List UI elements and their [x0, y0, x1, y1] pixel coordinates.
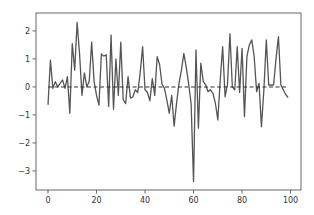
x-tick-label: 0	[45, 196, 50, 205]
x-tick-label: 60	[188, 196, 198, 205]
x-tick-label: 100	[283, 196, 298, 205]
y-tick-label: 1	[25, 55, 30, 64]
x-tick-label: 40	[140, 196, 150, 205]
y-tick-label: 2	[25, 27, 30, 36]
y-tick-label: 0	[25, 83, 30, 92]
line-chart: 020406080100 210−1−2−3	[0, 0, 314, 215]
x-tick-label: 20	[91, 196, 101, 205]
y-axis: 210−1−2−3	[18, 27, 36, 176]
data-line	[48, 23, 288, 182]
y-tick-label: −2	[18, 139, 30, 148]
y-tick-label: −3	[18, 167, 30, 176]
x-tick-label: 80	[237, 196, 247, 205]
y-tick-label: −1	[18, 111, 30, 120]
x-axis: 020406080100	[45, 190, 298, 205]
plot-series	[48, 23, 288, 182]
